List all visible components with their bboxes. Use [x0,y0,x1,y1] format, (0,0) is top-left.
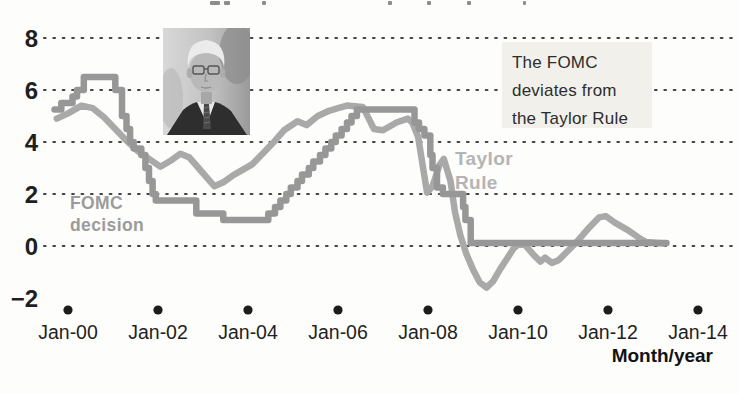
fomc-decision-label: FOMC decision [70,192,144,236]
portrait-photo-image [163,28,250,135]
x-tick-label: Jan-06 [308,321,368,343]
x-tick-dot [513,305,522,314]
x-tick-label: Jan-12 [578,321,638,343]
x-tick-label: Jan-04 [218,321,278,343]
x-tick-label: Jan-00 [38,321,98,343]
x-tick-label: Jan-14 [668,321,728,343]
x-tick-dot [333,305,342,314]
portrait-photo [163,28,250,135]
callout-line-1: The FOMC [512,49,642,77]
callout-box: The FOMC deviates from the Taylor Rule [502,42,652,128]
y-tick-label: −2 [11,285,38,312]
x-tick-dot [243,305,252,314]
y-tick-label: 0 [25,233,38,260]
x-tick-dot [603,305,612,314]
x-tick-dot [423,305,432,314]
x-tick-label: Jan-02 [128,321,188,343]
x-axis-title: Month/year [612,345,713,367]
x-tick-dot [693,305,702,314]
x-tick-label: Jan-08 [398,321,458,343]
y-tick-label: 6 [25,77,38,104]
taylor-rule-label: Taylor Rule [455,147,513,195]
y-tick-label: 8 [25,25,38,52]
x-tick-label: Jan-10 [488,321,548,343]
x-tick-dot [63,305,72,314]
y-tick-label: 2 [25,181,38,208]
callout-line-3: the Taylor Rule [512,105,642,133]
callout-line-2: deviates from [512,77,642,105]
taylor-rule-chart-figure: 86420−2Jan-00Jan-02Jan-04Jan-06Jan-08Jan… [0,0,739,394]
y-tick-label: 4 [25,129,39,156]
cropped-text-fragment [0,0,739,6]
x-tick-dot [153,305,162,314]
